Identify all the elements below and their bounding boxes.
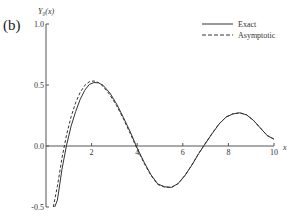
series-line-exact <box>55 83 274 207</box>
x-tick-label: 8 <box>226 148 230 157</box>
x-tick-label: 2 <box>90 148 94 157</box>
legend-label-exact: Exact <box>238 20 257 29</box>
y-axis-label: Y₀(x) <box>38 7 54 16</box>
axes <box>46 24 274 207</box>
legend-label-asymptotic: Asymptotic <box>238 31 276 40</box>
y-tick-label: -0.5 <box>31 203 44 212</box>
x-axis-label: x <box>282 143 287 152</box>
x-tick-label: 6 <box>181 148 185 157</box>
panel-label: (b) <box>3 17 21 34</box>
y-tick-label: 0.0 <box>34 142 44 151</box>
y-tick-label: 1.0 <box>34 20 44 29</box>
bessel-chart: (b) Y₀(x) x -0.50.00.51.0246810 Exact As… <box>0 0 302 220</box>
x-tick-label: 10 <box>270 148 278 157</box>
ticks: -0.50.00.51.0246810 <box>31 20 278 212</box>
y-tick-label: 0.5 <box>34 81 44 90</box>
series-line-asymptotic <box>53 81 274 207</box>
x-tick-label: 4 <box>135 148 139 157</box>
legend: Exact Asymptotic <box>202 20 276 40</box>
series-layer <box>53 81 274 207</box>
